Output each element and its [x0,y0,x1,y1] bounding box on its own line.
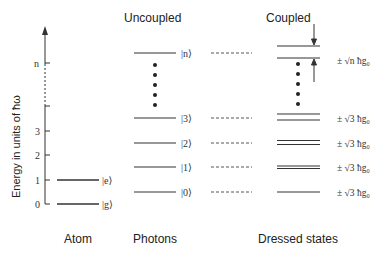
energy-axis-label: Energy in units of ħω [10,95,22,198]
tick-label-n: n [34,58,39,69]
splitting-label-2: ± √3 ħg₀ [337,139,370,149]
photon-level-2: |2⟩ [181,138,192,149]
dressed-column-label: Dressed states [258,232,338,246]
photons-column-label: Photons [133,232,177,246]
dashed-connectors [211,53,252,192]
energy-axis [42,26,50,204]
photon-ellipsis-icon [153,63,157,107]
dressed-states-diagram: Uncoupled Coupled Energy in units of ħω … [0,0,384,255]
splitting-arrows-icon [312,24,317,82]
tick-label-3: 3 [35,126,40,137]
splitting-label-3: ± √3 ħg₀ [337,114,370,124]
photon-level-0: |0⟩ [181,187,192,198]
splitting-label-0: ± √3 ħg₀ [337,188,370,198]
splitting-label-n: ± √n ħg₀ [337,56,370,66]
photon-level-1: |1⟩ [181,162,192,173]
atom-level-e: |e⟩ [102,175,112,186]
photon-level-n: |n⟩ [181,48,192,59]
atom-column-label: Atom [64,232,92,246]
tick-label-2: 2 [35,150,40,161]
photon-level-3: |3⟩ [181,113,192,124]
tick-label-0: 0 [35,199,40,210]
uncoupled-header: Uncoupled [124,11,181,25]
atom-level-g: |g⟩ [102,199,113,210]
dressed-ellipsis-icon [296,62,300,106]
coupled-header: Coupled [266,11,311,25]
tick-label-1: 1 [35,175,40,186]
splitting-label-1: ± √3 ħg₀ [337,163,370,173]
atom-levels [57,180,99,204]
axis-arrow-icon [42,26,48,35]
